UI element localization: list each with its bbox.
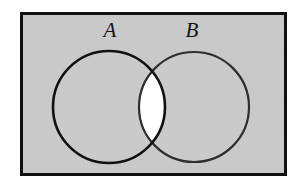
set-b-label: B: [186, 18, 199, 42]
set-a-label: A: [102, 18, 117, 42]
venn-diagram-canvas: A B: [0, 0, 304, 188]
venn-diagram-figure: A B: [0, 0, 304, 188]
